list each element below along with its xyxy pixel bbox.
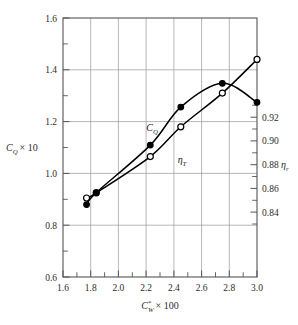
chart-svg: 1.6 1.4 1.2 1.0 0.8 0.6 0.92 0.90 0.88 0… xyxy=(0,0,298,325)
xtick-label-2.8: 2.8 xyxy=(223,283,235,293)
ytick-label-1.6: 1.6 xyxy=(45,14,57,24)
x-axis-title-sup: * xyxy=(148,299,152,306)
etaT-point-4 xyxy=(220,81,226,87)
etaT-point-3 xyxy=(178,104,184,110)
xtick-label-2.2: 2.2 xyxy=(140,283,152,293)
cq-point-5 xyxy=(254,56,260,62)
etaT-point-2 xyxy=(148,142,154,148)
cq-point-3 xyxy=(178,124,184,130)
cq-point-4 xyxy=(219,90,225,96)
cq-point-2 xyxy=(147,154,153,160)
etaT-point-0 xyxy=(84,202,90,208)
ytick-label-1.4: 1.4 xyxy=(45,65,57,75)
ytick-label-0.6: 0.6 xyxy=(45,273,57,283)
ytick-right-label-0.90: 0.90 xyxy=(262,136,279,146)
y-axis-title-right-sub: r xyxy=(286,165,289,172)
xtick-label-2.6: 2.6 xyxy=(196,283,208,293)
xtick-label-3.0: 3.0 xyxy=(251,283,263,293)
ytick-label-1.2: 1.2 xyxy=(45,117,57,127)
ytick-right-label-0.84: 0.84 xyxy=(262,208,279,218)
xtick-label-2.4: 2.4 xyxy=(168,283,180,293)
ytick-label-0.8: 0.8 xyxy=(45,221,57,231)
x-axis-title-rest: × 100 xyxy=(156,300,179,311)
chart-figure: 1.6 1.4 1.2 1.0 0.8 0.6 0.92 0.90 0.88 0… xyxy=(0,0,298,325)
y-axis-title-left: CQ× 10 xyxy=(6,142,38,155)
cq-curve-label-sub: Q xyxy=(153,128,158,135)
ytick-label-1.0: 1.0 xyxy=(45,169,57,179)
etaT-point-5 xyxy=(254,100,260,106)
xtick-label-1.8: 1.8 xyxy=(85,283,97,293)
y-axis-title-left-rest: × 10 xyxy=(20,142,38,153)
ytick-right-label-0.88: 0.88 xyxy=(262,160,279,170)
ytick-right-label-0.92: 0.92 xyxy=(262,113,279,123)
y-axis-title-left-sub: Q xyxy=(13,148,18,155)
ytick-right-label-0.86: 0.86 xyxy=(262,184,279,194)
x-axis-title: C*W× 100 xyxy=(141,299,178,313)
xtick-label-2.0: 2.0 xyxy=(112,283,124,293)
xtick-label-1.6: 1.6 xyxy=(57,283,69,293)
etaT-point-1 xyxy=(93,190,99,196)
